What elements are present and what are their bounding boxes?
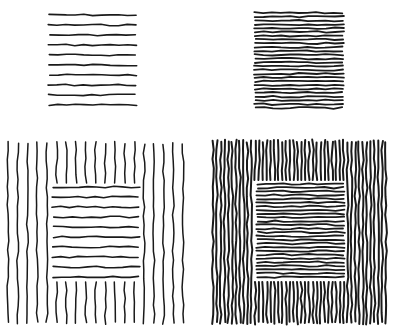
hatch-line <box>256 92 343 93</box>
hatch-line <box>257 198 344 199</box>
hatch-line <box>321 142 322 180</box>
hatch-line <box>274 140 275 180</box>
hatch-line <box>266 282 268 323</box>
hatch-line <box>374 140 376 322</box>
hatch-line <box>182 144 184 323</box>
hatch-line <box>257 254 343 256</box>
hatch-line <box>293 140 295 180</box>
hatch-line <box>316 282 317 323</box>
hatch-line <box>343 282 345 323</box>
hatch-line <box>282 142 283 180</box>
hatch-line <box>289 140 290 180</box>
hatch-line <box>228 141 230 323</box>
hatch-line <box>46 143 48 322</box>
hatch-line <box>331 282 332 322</box>
hatch-line <box>49 14 136 15</box>
hatch-line <box>105 282 106 324</box>
hatch-line <box>324 140 325 180</box>
hatch-line <box>258 232 345 234</box>
hatch-line <box>95 282 96 323</box>
hatch-line <box>258 243 345 245</box>
hatch-line <box>49 104 137 105</box>
hatch-line <box>256 96 343 97</box>
hatch-line <box>53 246 139 248</box>
hatch-line <box>270 282 271 322</box>
hatch-line <box>124 144 125 183</box>
hatch-line <box>36 142 38 322</box>
hatch-line <box>270 141 271 180</box>
hatch-line <box>48 44 136 45</box>
hatch-line <box>256 39 343 40</box>
hatch-line <box>262 282 263 322</box>
hatch-line <box>255 24 344 25</box>
hatch-line <box>257 273 344 274</box>
hatch-line <box>256 251 344 252</box>
hatch-line <box>256 100 343 101</box>
hatch-line <box>378 141 379 324</box>
hatch-line <box>256 265 344 267</box>
hatch-line <box>278 140 279 180</box>
hatch-line <box>320 282 321 324</box>
hatch-line <box>263 142 264 180</box>
panel-sparse-vertical-with-horizontal-inset <box>7 142 184 325</box>
hatch-line <box>66 142 67 183</box>
hatch-line <box>316 142 317 180</box>
inset-horizontal-square <box>256 183 345 277</box>
hatch-line <box>340 282 341 323</box>
panel-dense-horizontal <box>254 12 344 109</box>
hatch-line <box>257 258 345 259</box>
hatch-line <box>251 140 253 323</box>
hatch-line <box>256 236 343 237</box>
hatch-line <box>258 187 343 189</box>
hatch-line <box>328 142 329 180</box>
hatch-line <box>254 28 344 29</box>
hatch-line <box>257 206 345 208</box>
hatch-line <box>385 142 387 323</box>
hatch-line <box>257 191 345 192</box>
hatch-line <box>370 141 372 323</box>
hatch-line <box>85 282 87 323</box>
hatch-line <box>143 144 145 323</box>
hatch-line <box>328 282 329 323</box>
hatch-line <box>255 43 344 44</box>
hatch-line <box>256 228 343 229</box>
hatch-line <box>243 140 245 323</box>
hatch-line <box>52 196 138 197</box>
hatch-line <box>49 54 135 55</box>
hatch-line <box>257 276 344 278</box>
hatch-line <box>231 142 233 324</box>
hatch-line <box>134 282 135 322</box>
hatch-line <box>17 143 19 324</box>
hatch-line <box>274 282 275 324</box>
hatch-line <box>343 140 344 180</box>
texture-figure <box>0 0 395 331</box>
hatch-line <box>257 261 344 263</box>
hatch-line <box>305 140 306 180</box>
hatch-line <box>366 142 368 324</box>
hatch-line <box>75 282 76 323</box>
hatch-line <box>256 247 344 248</box>
hatch-line <box>95 142 96 183</box>
hatch-line <box>114 282 115 322</box>
hatch-line <box>308 142 310 180</box>
hatch-line <box>285 282 287 324</box>
hatch-line <box>257 210 345 211</box>
hatch-line <box>66 282 67 324</box>
hatch-line <box>301 282 303 323</box>
hatch-line <box>266 140 267 180</box>
hatch-line <box>52 206 139 208</box>
hatch-line <box>239 141 241 323</box>
hatch-line <box>216 140 218 322</box>
hatch-line <box>255 47 343 48</box>
hatch-line <box>224 140 226 322</box>
hatch-line <box>335 141 336 180</box>
hatch-line <box>358 141 360 324</box>
hatch-line <box>53 186 140 188</box>
hatch-line <box>50 74 137 76</box>
hatch-line <box>247 142 249 324</box>
hatch-line <box>257 213 344 214</box>
hatch-line <box>254 51 342 52</box>
hatch-line <box>289 282 290 322</box>
hatch-line <box>258 239 344 241</box>
hatch-line <box>258 221 344 223</box>
